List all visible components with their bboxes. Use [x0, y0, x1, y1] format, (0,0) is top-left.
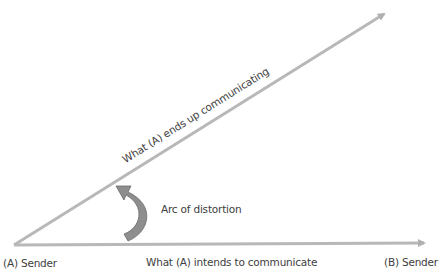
intended-arrow — [14, 243, 424, 245]
arc-of-distortion-label: Arc of distortion — [161, 203, 241, 215]
arc-of-distortion-icon — [116, 186, 147, 241]
sender-b-label: (B) Sender — [384, 256, 438, 268]
distortion-diagram — [0, 0, 439, 277]
sender-a-label: (A) Sender — [3, 257, 57, 269]
intended-message-label: What (A) intends to communicate — [146, 256, 317, 268]
